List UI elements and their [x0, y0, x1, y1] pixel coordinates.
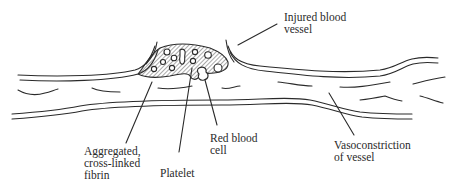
leader-fibrin [126, 82, 152, 143]
label-fibrin: Aggregated, cross-linked fibrin [84, 145, 141, 181]
label-red-blood-cell: Red blood cell [210, 132, 258, 156]
blood-clot-diagram: Injured blood vessel Aggregated, cross-l… [0, 0, 458, 183]
leader-platelet [179, 68, 192, 152]
upper-wall-right [228, 46, 438, 72]
leader-red-cell [205, 80, 217, 125]
leader-vasoconstriction [329, 93, 354, 135]
label-injured-vessel: Injured blood vessel [284, 11, 346, 35]
label-platelet: Platelet [160, 167, 195, 179]
upper-wall-left [18, 46, 155, 76]
leader-injured-vessel [238, 24, 277, 45]
label-vasoconstriction: Vasoconstriction of vessel [334, 139, 411, 163]
